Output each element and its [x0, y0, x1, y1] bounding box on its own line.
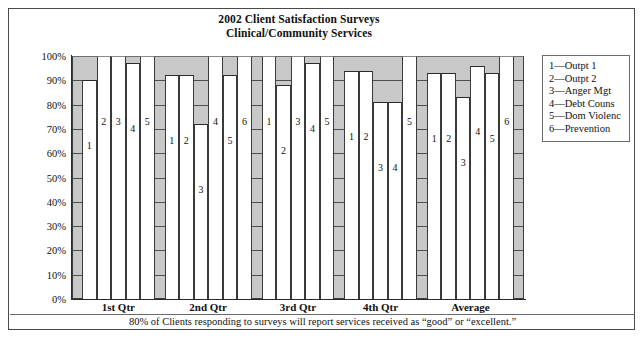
- y-tick-label-80pct: 80%: [20, 99, 66, 110]
- bar-2nd-qtr-series-3: 3: [194, 124, 209, 299]
- bar-series-number: 5: [403, 116, 416, 127]
- y-tick-label-60pct: 60%: [20, 148, 66, 159]
- bar-4th-qtr-series-5: 5: [402, 56, 417, 299]
- footer-divider: [10, 314, 635, 315]
- bar-average-series-1: 1: [427, 73, 442, 299]
- legend-item-6: 6—Prevention: [549, 123, 624, 136]
- legend-item-5: 5—Dom Violenc: [549, 110, 624, 123]
- legend-item-1: 1—Outpt 1: [549, 60, 624, 73]
- bar-series-number: 4: [209, 116, 222, 127]
- legend-item-4: 4—Debt Couns: [549, 98, 624, 111]
- bar-1st-qtr-series-4: 4: [126, 63, 141, 299]
- bar-series-number: 2: [180, 135, 193, 146]
- bar-series-number: 5: [321, 116, 334, 127]
- bar-series-number: 3: [195, 184, 208, 195]
- bar-average-series-2: 2: [441, 73, 456, 299]
- bar-4th-qtr-series-3: 3: [373, 102, 388, 299]
- legend-item-2: 2—Outpt 2: [549, 73, 624, 86]
- bar-3rd-qtr-series-1: 1: [262, 56, 277, 299]
- bar-series-number: 5: [224, 135, 237, 146]
- bar-series-number: 1: [345, 131, 358, 142]
- bar-series-number: 2: [98, 116, 111, 127]
- bar-2nd-qtr-series-6: 6: [237, 56, 252, 299]
- bar-1st-qtr-series-5: 5: [140, 56, 155, 299]
- bar-series-number: 1: [83, 140, 96, 151]
- bar-2nd-qtr-series-2: 2: [179, 75, 194, 299]
- bar-series-number: 4: [306, 123, 319, 134]
- bar-average-series-4: 4: [470, 66, 485, 299]
- legend-item-3: 3—Anger Mgt: [549, 85, 624, 98]
- chart-title-line1: 2002 Client Satisfaction Surveys: [218, 13, 379, 25]
- bar-1st-qtr-series-1: 1: [82, 80, 97, 299]
- bar-2nd-qtr-series-1: 1: [165, 75, 180, 299]
- y-tick-label-40pct: 40%: [20, 196, 66, 207]
- bar-series-number: 5: [486, 133, 499, 144]
- bar-3rd-qtr-series-3: 3: [291, 56, 306, 299]
- bar-series-number: 4: [389, 162, 402, 173]
- y-tick-label-10pct: 10%: [20, 269, 66, 280]
- y-axis-tick-labels: 100%90%80%70%60%50%40%30%20%10%0%: [18, 9, 66, 339]
- scan-edge-artifact: [0, 0, 643, 2]
- bar-4th-qtr-series-2: 2: [359, 71, 374, 299]
- y-tick-label-30pct: 30%: [20, 221, 66, 232]
- bar-series-number: 3: [374, 162, 387, 173]
- bar-series-number: 3: [292, 116, 305, 127]
- y-tick-label-100pct: 100%: [20, 51, 66, 62]
- bar-series-number: 1: [428, 133, 441, 144]
- bar-series-number: 5: [141, 116, 154, 127]
- bar-series-number: 4: [127, 123, 140, 134]
- bar-series-number: 6: [238, 116, 251, 127]
- y-tick-label-70pct: 70%: [20, 123, 66, 134]
- bar-series-number: 2: [442, 133, 455, 144]
- chart-figure-frame: 2002 Client Satisfaction Surveys Clinica…: [8, 8, 635, 330]
- bar-3rd-qtr-series-5: 5: [320, 56, 335, 299]
- bar-series-number: 4: [471, 126, 484, 137]
- y-tick-label-90pct: 90%: [20, 75, 66, 86]
- bars-layer: 123451234561234512345123456: [72, 56, 524, 299]
- bar-series-number: 3: [112, 116, 125, 127]
- y-tick-label-20pct: 20%: [20, 245, 66, 256]
- bar-1st-qtr-series-2: 2: [97, 56, 112, 299]
- y-tick-label-50pct: 50%: [20, 172, 66, 183]
- bar-2nd-qtr-series-4: 4: [208, 56, 223, 299]
- bar-3rd-qtr-series-2: 2: [276, 85, 291, 299]
- x-axis-line: [71, 299, 526, 300]
- bar-series-number: 1: [166, 135, 179, 146]
- footer-note: 80% of Clients responding to surveys wil…: [9, 316, 636, 327]
- chart-legend: 1—Outpt 12—Outpt 23—Anger Mgt4—Debt Coun…: [542, 55, 630, 142]
- bar-series-number: 2: [277, 145, 290, 156]
- bar-average-series-3: 3: [456, 97, 471, 299]
- bar-4th-qtr-series-1: 1: [344, 71, 359, 299]
- bar-3rd-qtr-series-4: 4: [305, 63, 320, 299]
- chart-subtitle: Clinical/Community Services: [69, 27, 529, 41]
- bar-series-number: 2: [360, 131, 373, 142]
- bar-series-number: 6: [500, 116, 513, 127]
- bar-average-series-6: 6: [499, 56, 514, 299]
- bar-4th-qtr-series-4: 4: [388, 102, 403, 299]
- chart-title: 2002 Client Satisfaction Surveys Clinica…: [69, 13, 529, 40]
- bar-series-number: 3: [457, 157, 470, 168]
- bar-series-number: 1: [263, 116, 276, 127]
- bar-2nd-qtr-series-5: 5: [223, 75, 238, 299]
- bar-average-series-5: 5: [485, 73, 500, 299]
- x-group-label-average: Average: [405, 301, 536, 313]
- bar-1st-qtr-series-3: 3: [111, 56, 126, 299]
